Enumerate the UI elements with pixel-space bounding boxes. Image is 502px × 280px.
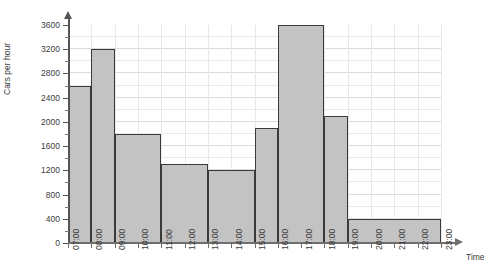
x-tick	[394, 243, 395, 248]
x-tick	[185, 243, 186, 248]
x-tick-label: 18:00	[328, 229, 336, 250]
y-tick-label: 400	[0, 215, 60, 223]
x-tick-label: 16:00	[281, 229, 289, 250]
y-tick-label-wrap: 800	[0, 191, 60, 199]
x-tick	[278, 243, 279, 248]
x-tick-label: 21:00	[398, 229, 406, 250]
x-tick-label: 08:00	[95, 229, 103, 250]
bar-0900-1100	[115, 134, 162, 243]
x-tick	[348, 243, 349, 248]
x-tick-label: 15:00	[258, 229, 266, 250]
y-tick-major	[63, 98, 69, 99]
bar-0800-0900	[91, 49, 114, 243]
bar-1600-1800	[278, 25, 325, 243]
x-tick	[231, 243, 232, 248]
y-tick-minor	[65, 37, 69, 38]
x-tick-label: 20:00	[375, 229, 383, 250]
x-tick-label: 09:00	[118, 229, 126, 250]
y-tick-label-wrap: 1600	[0, 142, 60, 150]
x-tick-label: 10:00	[141, 229, 149, 250]
traffic-histogram-chart: 04008001200160020002400280032003600 07:0…	[0, 0, 502, 280]
y-tick-label-wrap: 1200	[0, 166, 60, 174]
x-tick-label: 23:00	[445, 229, 453, 250]
y-tick-major	[63, 146, 69, 147]
y-tick-minor	[65, 61, 69, 62]
y-tick-label-wrap: 0	[0, 239, 60, 247]
bar-1800-1900	[324, 116, 347, 243]
y-tick-minor	[65, 158, 69, 159]
y-tick-minor	[65, 207, 69, 208]
x-tick	[115, 243, 116, 248]
bar-0700-0800	[68, 86, 91, 243]
gridline-vertical	[394, 25, 395, 243]
gridline-vertical	[441, 25, 442, 243]
y-tick-minor	[65, 110, 69, 111]
y-tick-major	[63, 25, 69, 26]
y-tick-major	[63, 219, 69, 220]
y-tick-minor	[65, 86, 69, 87]
x-tick-label: 12:00	[188, 229, 196, 250]
gridline-vertical	[418, 25, 419, 243]
y-tick-major	[63, 49, 69, 50]
bar-1500-1600	[255, 128, 278, 243]
x-axis-arrow-icon	[455, 238, 463, 246]
x-tick-label: 22:00	[421, 229, 429, 250]
y-axis-line	[68, 18, 70, 243]
x-tick	[255, 243, 256, 248]
y-tick-minor	[65, 134, 69, 135]
x-tick	[418, 243, 419, 248]
y-tick-label: 1600	[0, 142, 60, 150]
x-tick	[68, 243, 69, 248]
y-tick-label-wrap: 2000	[0, 118, 60, 126]
x-tick-label: 14:00	[235, 229, 243, 250]
y-tick-minor	[65, 182, 69, 183]
y-tick-label: 1200	[0, 166, 60, 174]
x-tick-label: 13:00	[211, 229, 219, 250]
y-tick-label: 0	[0, 239, 60, 247]
y-tick-label: 3600	[0, 21, 60, 29]
x-tick	[301, 243, 302, 248]
x-tick-label: 11:00	[165, 229, 173, 250]
x-axis-title: Time	[466, 252, 485, 262]
y-tick-major	[63, 170, 69, 171]
x-tick	[371, 243, 372, 248]
gridline-vertical	[348, 25, 349, 243]
x-tick-label: 07:00	[72, 229, 80, 250]
x-tick-label: 17:00	[305, 229, 313, 250]
y-axis-title: Cars per hour	[2, 43, 12, 95]
plot-area	[68, 25, 441, 243]
x-tick	[161, 243, 162, 248]
x-tick	[208, 243, 209, 248]
y-tick-label-wrap: 3600	[0, 21, 60, 29]
y-axis-arrow-icon	[64, 11, 72, 19]
y-tick-minor	[65, 231, 69, 232]
x-tick	[441, 243, 442, 248]
x-tick-label: 19:00	[351, 229, 359, 250]
y-tick-label-wrap: 400	[0, 215, 60, 223]
y-tick-label: 2000	[0, 118, 60, 126]
x-tick	[138, 243, 139, 248]
y-tick-major	[63, 195, 69, 196]
x-tick	[91, 243, 92, 248]
y-tick-major	[63, 122, 69, 123]
gridline-vertical	[371, 25, 372, 243]
y-tick-major	[63, 73, 69, 74]
x-tick	[324, 243, 325, 248]
y-tick-label: 800	[0, 191, 60, 199]
